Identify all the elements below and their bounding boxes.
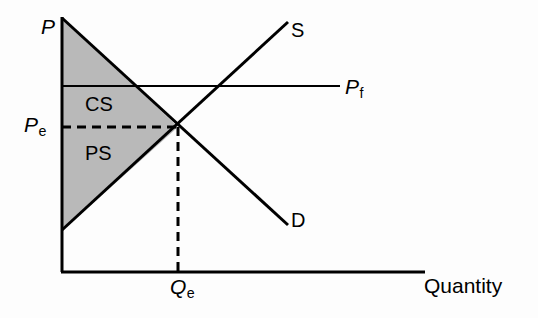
world-price-subscript: f <box>359 85 363 101</box>
supply-curve-label: S <box>291 20 304 40</box>
equilibrium-quantity-symbol: Q <box>170 275 186 298</box>
diagram-canvas <box>0 0 538 318</box>
world-price-symbol: P <box>345 75 359 98</box>
equilibrium-price-label: Pe <box>24 114 46 135</box>
equilibrium-quantity-subscript: e <box>187 285 195 301</box>
demand-curve-label: D <box>291 210 305 230</box>
equilibrium-price-symbol: P <box>24 113 38 136</box>
world-price-label: Pf <box>345 76 363 97</box>
surplus-shaded-region <box>63 18 178 230</box>
supply-demand-figure: P Pe Pf S D CS PS Qe Quantity <box>0 0 538 318</box>
equilibrium-quantity-label: Qe <box>170 276 194 297</box>
equilibrium-price-subscript: e <box>38 123 46 139</box>
producer-surplus-label: PS <box>85 143 112 163</box>
x-axis-label: Quantity <box>424 275 502 296</box>
y-axis-label: P <box>41 16 55 37</box>
consumer-surplus-label: CS <box>85 94 113 114</box>
